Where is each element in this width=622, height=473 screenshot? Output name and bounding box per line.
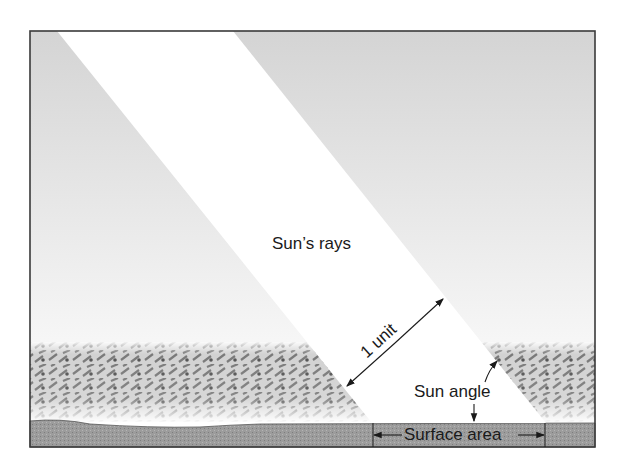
surface-area-label: Surface area [404, 425, 501, 445]
sun-angle-diagram: Sun’s rays 1 unit Sun angle Surface area [0, 0, 622, 473]
suns-rays-label: Sun’s rays [272, 234, 351, 254]
sun-angle-label: Sun angle [414, 382, 491, 402]
ground [30, 420, 595, 447]
